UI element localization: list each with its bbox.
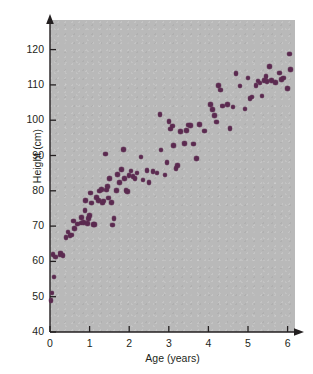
data-point xyxy=(107,176,112,181)
data-point xyxy=(101,199,106,204)
data-point xyxy=(182,141,187,146)
data-point xyxy=(109,200,114,205)
data-point xyxy=(165,160,170,165)
data-point xyxy=(208,102,213,107)
scatter-plot-figure: 405060708090100110120 0123456 Height (cm… xyxy=(0,0,313,374)
data-point xyxy=(88,191,93,196)
data-point xyxy=(121,147,126,152)
x-tick-label: 3 xyxy=(154,337,184,349)
tick-marks xyxy=(50,50,288,332)
data-point xyxy=(216,83,221,88)
data-point xyxy=(212,113,217,118)
data-point xyxy=(83,198,88,203)
data-point xyxy=(92,222,97,227)
x-tick-label: 5 xyxy=(233,337,263,349)
data-point xyxy=(115,172,120,177)
data-point xyxy=(119,167,124,172)
data-point xyxy=(85,221,90,226)
data-point xyxy=(267,64,272,69)
data-point xyxy=(105,184,110,189)
y-tick-label: 70 xyxy=(8,219,44,231)
y-tick-label: 50 xyxy=(8,290,44,302)
data-point xyxy=(87,213,92,218)
x-axis-arrow-icon xyxy=(294,328,304,336)
data-point xyxy=(79,215,84,220)
data-point xyxy=(273,80,278,85)
data-point xyxy=(103,152,108,157)
x-tick-label: 2 xyxy=(114,337,144,349)
x-tick-label: 6 xyxy=(273,337,303,349)
y-tick-label: 60 xyxy=(8,254,44,266)
x-tick-label: 4 xyxy=(193,337,223,349)
data-point xyxy=(175,163,180,168)
data-point xyxy=(117,180,122,185)
data-point xyxy=(214,120,219,125)
data-point xyxy=(220,104,225,109)
data-point xyxy=(114,188,119,193)
y-tick-label: 40 xyxy=(8,325,44,337)
x-axis-title: Age (years) xyxy=(50,352,295,364)
data-point xyxy=(171,143,176,148)
data-point xyxy=(281,76,286,81)
y-tick-label: 120 xyxy=(8,43,44,55)
y-axis-arrow-icon xyxy=(46,14,54,24)
data-point xyxy=(72,226,77,231)
data-point xyxy=(277,71,282,76)
data-point xyxy=(218,88,223,93)
data-point xyxy=(225,102,230,107)
x-tick-label: 0 xyxy=(35,337,65,349)
data-point xyxy=(110,223,115,228)
data-point xyxy=(125,189,130,194)
x-tick-label: 1 xyxy=(75,337,105,349)
data-point xyxy=(197,122,202,127)
data-point xyxy=(285,86,290,91)
data-point xyxy=(202,129,207,134)
data-point xyxy=(184,128,189,133)
data-point xyxy=(194,156,199,161)
data-point xyxy=(264,74,269,79)
axis-lines xyxy=(0,0,313,374)
y-tick-label: 110 xyxy=(8,78,44,90)
y-axis-title: Height (cm) xyxy=(31,111,43,201)
data-point xyxy=(188,123,193,128)
data-point xyxy=(178,129,183,134)
data-point xyxy=(210,107,215,112)
data-point xyxy=(288,67,293,72)
data-point xyxy=(83,208,88,213)
data-point xyxy=(122,176,127,181)
